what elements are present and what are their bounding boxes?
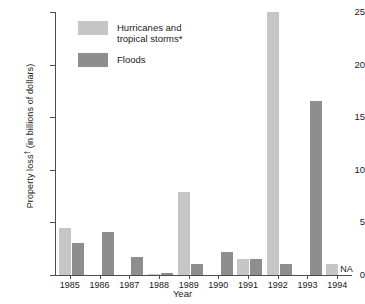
x-tick-mark bbox=[278, 275, 279, 279]
bar-hurricanes bbox=[237, 259, 249, 275]
x-tick-mark bbox=[189, 275, 190, 279]
x-tick-mark bbox=[159, 275, 160, 279]
x-tick-mark bbox=[307, 275, 308, 279]
bar-group bbox=[206, 12, 236, 275]
bar-group bbox=[235, 12, 265, 275]
x-tick-mark bbox=[70, 275, 71, 279]
legend-item-hurricanes: Hurricanes and tropical storms* bbox=[78, 21, 182, 44]
legend-swatch-floods-icon bbox=[78, 53, 108, 67]
property-loss-bar-chart: Property loss† (in billions of dollars) … bbox=[0, 0, 365, 304]
bar-floods bbox=[72, 243, 84, 275]
bar-group bbox=[295, 12, 325, 275]
bar-floods bbox=[280, 264, 292, 275]
x-tick-mark bbox=[100, 275, 101, 279]
y-axis-title: Property loss† (in billions of dollars) bbox=[23, 51, 35, 221]
x-tick-mark bbox=[218, 275, 219, 279]
bar-floods bbox=[221, 252, 233, 275]
bar-hurricanes bbox=[326, 264, 338, 275]
legend-label-floods: Floods bbox=[117, 53, 146, 65]
x-tick-mark bbox=[337, 275, 338, 279]
y-axis-title-tail: (in billions of dollars) bbox=[25, 64, 35, 151]
bar-floods bbox=[102, 232, 114, 275]
y-tick-mark bbox=[50, 275, 55, 276]
bar-floods bbox=[131, 257, 143, 275]
legend: Hurricanes and tropical storms* Floods bbox=[78, 21, 182, 76]
na-annotation: NA bbox=[340, 264, 353, 274]
x-tick-mark bbox=[129, 275, 130, 279]
x-tick-mark bbox=[248, 275, 249, 279]
legend-label-hurricanes: Hurricanes and tropical storms* bbox=[117, 21, 182, 44]
bar-floods bbox=[161, 273, 173, 275]
y-axis-title-main: Property loss bbox=[25, 154, 35, 208]
bar-group bbox=[265, 12, 295, 275]
y-axis-title-dagger: † bbox=[23, 151, 30, 155]
bar-hurricanes bbox=[59, 228, 71, 275]
x-axis-title: Year bbox=[0, 288, 365, 299]
bar-floods bbox=[250, 259, 262, 275]
legend-swatch-hurricanes-icon bbox=[78, 21, 108, 35]
bar-floods bbox=[191, 264, 203, 275]
bar-group: NA bbox=[324, 12, 354, 275]
bar-hurricanes bbox=[178, 192, 190, 275]
bar-floods bbox=[310, 101, 322, 275]
bar-hurricanes bbox=[267, 12, 279, 275]
legend-item-floods: Floods bbox=[78, 53, 182, 67]
